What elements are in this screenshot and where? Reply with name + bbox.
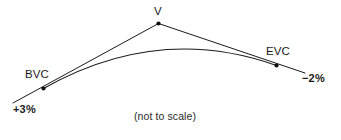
evc-point-marker	[274, 63, 278, 67]
incoming-grade-label: +3%	[13, 104, 36, 115]
back-tangent-line	[13, 24, 159, 104]
parabolic-curve	[44, 49, 277, 88]
vertical-curve-diagram: BVC V EVC +3% −2% (not to scale)	[0, 0, 341, 140]
bvc-point-marker	[41, 86, 45, 90]
vertex-point-marker	[156, 21, 160, 25]
not-to-scale-note: (not to scale)	[134, 111, 196, 122]
evc-label: EVC	[266, 46, 290, 58]
vertex-label: V	[154, 6, 162, 18]
outgoing-grade-label: −2%	[302, 73, 325, 84]
bvc-label: BVC	[25, 69, 49, 81]
